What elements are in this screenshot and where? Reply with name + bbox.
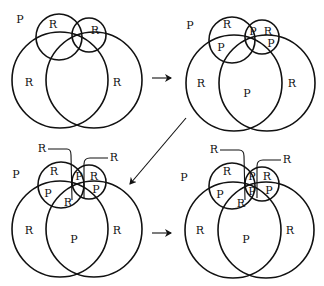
region-label-r: R	[113, 76, 122, 89]
panel-2: PRPRPPRPR	[186, 17, 315, 131]
region-label-r: R	[50, 165, 59, 178]
panel-4: RRPRPRPPPRRPR	[180, 143, 314, 278]
region-label-p: P	[12, 168, 20, 181]
region-label-r: R	[197, 77, 206, 90]
region-label-r: R	[288, 77, 297, 90]
region-label-r: R	[25, 76, 34, 89]
region-label-r: R	[283, 153, 292, 166]
region-label-r: R	[49, 18, 58, 31]
region-label-p: P	[265, 184, 273, 197]
region-label-p: P	[75, 170, 83, 183]
region-label-r: R	[223, 165, 232, 178]
region-label-r: R	[263, 170, 272, 183]
region-label-r: R	[237, 197, 246, 210]
region-label-p: P	[267, 37, 275, 50]
region-label-p: P	[216, 188, 224, 201]
region-label-p: P	[180, 171, 188, 184]
panel-3: RRPRPRPPRRPR	[12, 142, 142, 277]
region-label-r: R	[25, 224, 34, 237]
region-label-r: R	[110, 151, 119, 164]
region-label-r: R	[38, 142, 47, 155]
region-label-p: P	[217, 41, 225, 54]
medium-circle	[209, 17, 255, 63]
region-label-p: P	[248, 170, 256, 183]
region-label-p: P	[243, 87, 251, 100]
region-label-p: P	[92, 183, 100, 196]
region-label-r: R	[91, 24, 100, 37]
region-label-p: P	[242, 233, 250, 246]
region-label-p: P	[249, 25, 257, 38]
region-label-r: R	[286, 224, 295, 237]
region-label-r: R	[196, 224, 205, 237]
region-label-r: R	[223, 18, 232, 31]
region-label-p: P	[16, 13, 24, 26]
region-label-r: R	[90, 170, 99, 183]
panel-1: PRRRR	[12, 13, 142, 128]
region-label-p: P	[186, 19, 194, 32]
diagram-canvas: PRRRR PRPRPPRPR RRPRPRPPRRPR RRPRPRPPPRR…	[0, 0, 324, 286]
region-label-r: R	[210, 143, 219, 156]
region-label-r: R	[64, 196, 73, 209]
region-label-p: P	[248, 185, 256, 198]
medium-circle	[36, 14, 82, 60]
arrow-down-left-icon	[130, 118, 186, 184]
region-label-r: R	[113, 224, 122, 237]
region-label-p: P	[44, 187, 52, 200]
region-label-p: P	[70, 233, 78, 246]
